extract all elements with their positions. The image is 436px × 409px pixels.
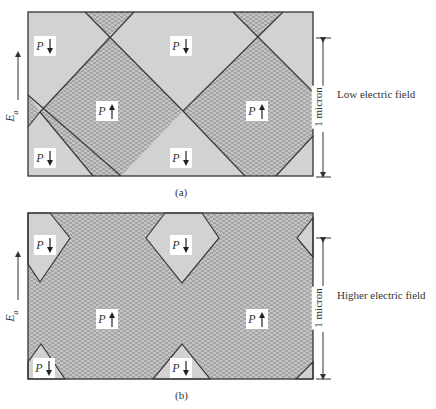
panel-b-domain-label: P	[33, 358, 55, 378]
arrow-down-icon	[46, 238, 54, 253]
panel-a-caption: (a)	[175, 186, 187, 198]
polarization-symbol: P	[248, 104, 255, 119]
panel-b-caption: (b)	[175, 389, 188, 401]
polarization-symbol: P	[36, 39, 43, 54]
panel-a-domain-label: P	[170, 148, 192, 168]
panel-b-side-label: Higher electric field	[337, 289, 426, 301]
polarization-symbol: P	[98, 312, 105, 327]
panel-a-domain-label: P	[34, 36, 56, 56]
panel-a-field-label: Ea	[3, 111, 19, 122]
arrow-up-icon	[108, 104, 116, 119]
panel-b-domain-label: P	[170, 235, 192, 255]
panel-b-domain-label: P	[34, 235, 56, 255]
polarization-symbol: P	[36, 238, 43, 253]
polarization-symbol: P	[172, 39, 179, 54]
polarization-symbol: P	[248, 312, 255, 327]
panel-a-dimension-label: 1 micron	[312, 85, 324, 128]
arrow-down-icon	[46, 39, 54, 54]
panel-b-domain-label: P	[96, 309, 118, 329]
arrow-down-icon	[46, 151, 54, 166]
arrow-down-icon	[45, 361, 53, 376]
panel-a-domain-label: P	[34, 148, 56, 168]
arrow-down-icon	[182, 238, 190, 253]
panel-b-dimension-label: 1 micron	[312, 286, 324, 329]
arrow-down-icon	[182, 39, 190, 54]
panel-b-field-label: Ea	[3, 311, 19, 322]
arrow-down-icon	[182, 361, 190, 376]
polarization-symbol: P	[172, 151, 179, 166]
polarization-symbol: P	[36, 151, 43, 166]
panel-a-domain-label: P	[170, 36, 192, 56]
polarization-symbol: P	[172, 238, 179, 253]
arrow-up-icon	[108, 312, 116, 327]
panel-b-domain-label: P	[246, 309, 268, 329]
polarization-symbol: P	[98, 104, 105, 119]
domain-diagram	[0, 0, 436, 409]
panel-b-domain-label: P	[170, 358, 192, 378]
panel-a-domain-label: P	[96, 101, 118, 121]
arrow-up-icon	[258, 312, 266, 327]
polarization-symbol: P	[35, 361, 42, 376]
panel-a-domain-label: P	[246, 101, 268, 121]
arrow-up-icon	[258, 104, 266, 119]
arrow-down-icon	[182, 151, 190, 166]
panel-a-side-label: Low electric field	[337, 88, 415, 100]
polarization-symbol: P	[172, 361, 179, 376]
